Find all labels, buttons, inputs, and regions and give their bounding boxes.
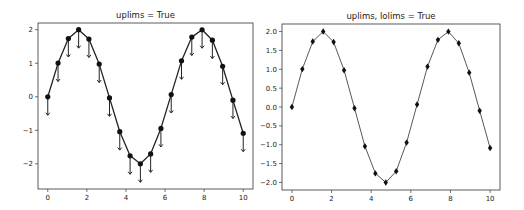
y-tick-label: 0 (29, 93, 33, 101)
y-tick-label: −2.0 (260, 179, 277, 187)
limit-arrows-marker (300, 66, 304, 72)
data-marker (45, 94, 50, 99)
y-tick-label: 1.0 (266, 66, 277, 74)
limit-arrows-marker (342, 67, 346, 73)
data-marker (86, 36, 91, 41)
data-marker (189, 34, 194, 39)
x-tick-label: 4 (369, 195, 374, 203)
limit-arrows-marker (425, 63, 429, 69)
left-axes-uplims: uplims = True 0246810−2−1012 (23, 10, 253, 202)
data-marker (148, 151, 153, 156)
data-marker (117, 129, 122, 134)
y-tick-label: −0.5 (260, 122, 277, 130)
limit-arrows-marker (321, 28, 325, 34)
limit-arrows-marker (404, 139, 408, 145)
axes-frame (38, 23, 253, 189)
data-line (292, 32, 490, 183)
y-tick-label: 2 (29, 26, 33, 34)
y-tick-label: −1 (23, 127, 33, 135)
x-tick-label: 8 (202, 194, 206, 202)
limit-arrows-marker (352, 105, 356, 111)
y-tick-label: −2 (23, 160, 33, 168)
limit-arrows-marker (363, 143, 367, 149)
limit-arrows-marker (331, 39, 335, 45)
data-line (48, 30, 243, 164)
data-marker (179, 58, 184, 63)
y-tick-label: 0.0 (266, 104, 277, 112)
x-tick-label: 0 (290, 195, 294, 203)
left-chart-title: uplims = True (116, 10, 175, 20)
limit-arrows-marker (488, 145, 492, 151)
y-tick-label: 0.5 (266, 85, 277, 93)
x-tick-label: 10 (486, 195, 495, 203)
limit-arrows-marker (290, 104, 294, 110)
y-tick-label: −1.0 (260, 141, 277, 149)
x-tick-label: 6 (409, 195, 414, 203)
data-marker (107, 95, 112, 100)
x-tick-label: 2 (329, 195, 333, 203)
data-marker (55, 61, 60, 66)
data-marker (220, 64, 225, 69)
x-tick-label: 10 (239, 194, 248, 202)
figure: uplims = True 0246810−2−1012 uplims, lol… (0, 0, 524, 210)
y-tick-label: 2.0 (266, 28, 277, 36)
limit-arrows-marker (311, 38, 315, 44)
limit-arrows-marker (373, 170, 377, 176)
data-marker (97, 62, 102, 67)
x-tick-label: 8 (448, 195, 452, 203)
data-marker (210, 38, 215, 43)
y-tick-label: 1 (29, 60, 33, 68)
axes-frame (282, 24, 500, 190)
x-tick-label: 6 (163, 194, 168, 202)
data-marker (230, 98, 235, 103)
right-chart-title: uplims, lolims = True (346, 11, 435, 21)
right-axes-uplims-lolims: uplims, lolims = True 0246810−2.0−1.5−1.… (260, 11, 500, 203)
data-marker (158, 126, 163, 131)
data-marker (169, 92, 174, 97)
data-marker (241, 131, 246, 136)
data-marker (199, 27, 204, 32)
x-tick-label: 0 (46, 194, 50, 202)
chart-canvas: uplims = True 0246810−2−1012 uplims, lol… (0, 0, 524, 210)
y-tick-label: 1.5 (266, 47, 277, 55)
data-marker (66, 36, 71, 41)
limit-arrows-marker (467, 69, 471, 75)
data-marker (127, 153, 132, 158)
data-marker (138, 161, 143, 166)
limit-arrows-marker (415, 101, 419, 107)
limit-arrows-marker (436, 37, 440, 43)
limit-arrows-marker (477, 108, 481, 114)
data-marker (76, 27, 81, 32)
x-tick-label: 4 (124, 194, 129, 202)
x-tick-label: 2 (85, 194, 89, 202)
y-tick-label: −1.5 (260, 160, 277, 168)
